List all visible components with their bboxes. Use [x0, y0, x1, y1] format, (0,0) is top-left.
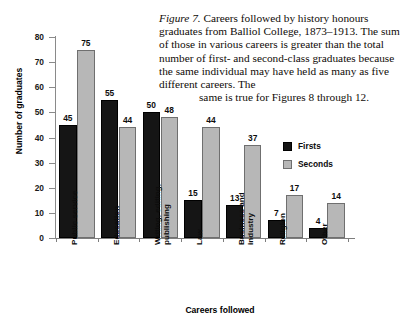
- legend-item: Firsts: [283, 142, 333, 151]
- legend-swatch: [283, 142, 292, 151]
- category-label-line: Business and: [237, 192, 246, 245]
- x-axis-tick: [306, 238, 307, 242]
- bar-seconds-1: [119, 127, 137, 238]
- x-axis-category-label: Law: [195, 229, 204, 245]
- y-axis-tick: [49, 87, 56, 88]
- bar-value-label: 44: [198, 116, 224, 125]
- bar-seconds-3: [202, 127, 220, 238]
- category-label-line: Education: [112, 206, 121, 245]
- x-axis-tick: [56, 238, 57, 242]
- x-axis-category-label: Writing, editing,publishing: [153, 184, 171, 245]
- y-axis-title: Number of graduates: [14, 51, 24, 171]
- x-axis-title: Careers followed: [120, 305, 320, 315]
- bar-seconds-6: [327, 203, 345, 238]
- x-axis-category-label: Business andindustry: [237, 192, 255, 245]
- x-axis-tick: [265, 238, 266, 242]
- x-axis-category-label: Public service: [70, 191, 79, 245]
- y-axis-tick: [49, 238, 56, 239]
- bar-value-label: 17: [282, 184, 308, 193]
- y-axis-tick-label: 80: [16, 33, 44, 41]
- category-label-line: Other: [320, 223, 329, 245]
- y-axis-tick-label: 10: [16, 209, 44, 217]
- legend-item: Seconds: [283, 160, 333, 169]
- bar-value-label: 44: [115, 116, 141, 125]
- bar-seconds-5: [286, 195, 304, 238]
- y-axis-tick: [49, 213, 56, 214]
- bar-value-label: 14: [323, 192, 349, 201]
- category-label-line: Religion: [278, 213, 287, 245]
- x-axis-tick: [98, 238, 99, 242]
- y-axis-tick: [49, 62, 56, 63]
- bar-value-label: 55: [97, 89, 123, 98]
- bar-value-label: 75: [73, 39, 99, 48]
- y-axis-tick: [49, 163, 56, 164]
- bar-value-label: 48: [157, 106, 183, 115]
- bar-seconds-0: [77, 50, 95, 238]
- y-axis-tick-label: 0: [16, 234, 44, 242]
- chart-legend: FirstsSeconds: [283, 142, 333, 178]
- category-label-line: Public service: [70, 191, 79, 245]
- legend-swatch: [283, 160, 292, 169]
- y-axis-tick: [49, 37, 56, 38]
- x-axis-category-label: Education: [112, 206, 121, 245]
- category-label-line: industry: [246, 192, 255, 245]
- category-label-line: Law: [195, 229, 204, 245]
- category-label-line: publishing: [162, 184, 171, 245]
- legend-label: Firsts: [298, 142, 321, 151]
- category-label-line: Writing, editing,: [153, 184, 162, 245]
- y-axis-tick-label: 20: [16, 184, 44, 192]
- x-axis-category-label: Religion: [278, 213, 287, 245]
- x-axis-tick: [181, 238, 182, 242]
- y-axis-tick: [49, 188, 56, 189]
- x-axis-line: [55, 238, 355, 239]
- legend-label: Seconds: [298, 160, 333, 169]
- x-axis-tick: [139, 238, 140, 242]
- y-axis-tick: [49, 138, 56, 139]
- x-axis-category-label: Other: [320, 223, 329, 245]
- x-axis-tick: [223, 238, 224, 242]
- plot-area: 45755544504815441337717414: [56, 37, 348, 238]
- x-axis-tick: [348, 238, 349, 242]
- bar-value-label: 37: [240, 134, 266, 143]
- bar-chart: 01020304050607080 Number of graduates Ca…: [0, 0, 415, 327]
